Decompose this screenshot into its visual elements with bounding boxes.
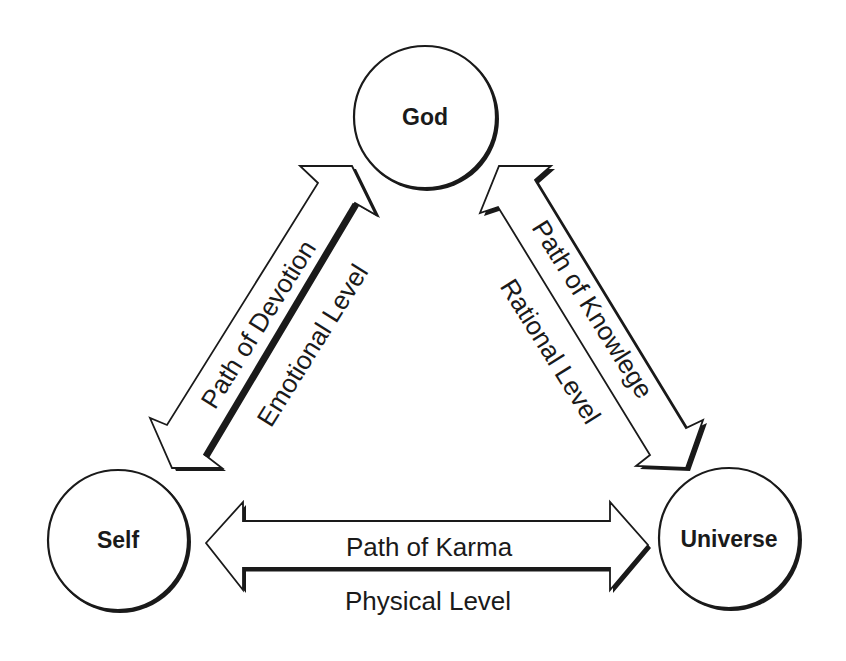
node-self: Self (48, 470, 191, 613)
triangle-diagram: God Self Universe Path of Devotion Emoti… (0, 0, 846, 661)
god-label: God (402, 104, 448, 130)
edge-knowledge: Path of Knowlege Rational Level (480, 166, 707, 471)
self-label: Self (97, 527, 140, 553)
knowledge-path-label: Path of Knowlege (526, 215, 659, 404)
edge-devotion: Path of Devotion Emotional Level (150, 166, 380, 471)
node-god: God (354, 46, 499, 191)
edge-karma: Path of Karma Physical Level (206, 502, 651, 616)
karma-path-label: Path of Karma (346, 532, 513, 562)
node-universe: Universe (659, 468, 802, 611)
universe-label: Universe (680, 526, 777, 552)
karma-level-label: Physical Level (345, 586, 511, 616)
